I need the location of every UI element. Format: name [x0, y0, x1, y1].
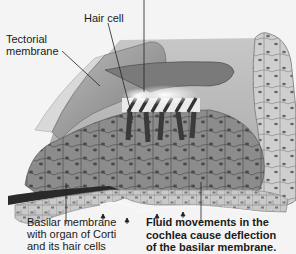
label-fluid-caption: Fluid movements in the cochlea cause def… [146, 216, 276, 254]
label-basilar-membrane: Basilar membrane with organ of Corti and… [27, 216, 116, 252]
cochlea-diagram: Hair cell Tectorial membrane Basilar mem… [0, 0, 296, 254]
label-tectorial-membrane: Tectorial membrane [6, 33, 59, 57]
label-hair-cell: Hair cell [84, 12, 124, 24]
